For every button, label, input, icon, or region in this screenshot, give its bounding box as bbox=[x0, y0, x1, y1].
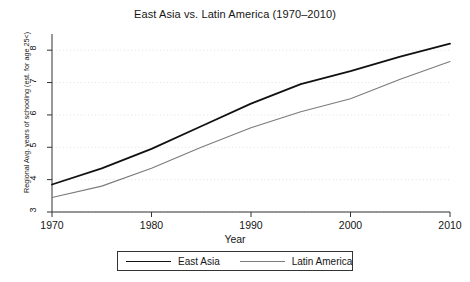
legend-item-latin-america: Latin America bbox=[220, 252, 353, 270]
x-axis-title: Year bbox=[0, 233, 470, 245]
legend-line-swatch-latin-america bbox=[240, 261, 285, 262]
legend-label-east-asia: East Asia bbox=[178, 256, 220, 267]
x-tick-label: 1990 bbox=[226, 219, 276, 231]
y-tick-marks bbox=[47, 50, 52, 212]
y-tick-label: 8 bbox=[28, 46, 38, 51]
x-tick-label: 2010 bbox=[425, 219, 470, 231]
y-tick-label: 6 bbox=[28, 110, 38, 115]
gridlines bbox=[52, 50, 450, 212]
y-tick-label: 3 bbox=[28, 207, 38, 212]
x-tick-label: 1970 bbox=[27, 219, 77, 231]
data-series-group bbox=[52, 44, 450, 198]
chart-legend: East Asia Latin America bbox=[117, 251, 353, 271]
y-tick-label: 4 bbox=[28, 175, 38, 180]
x-tick-label: 1980 bbox=[127, 219, 177, 231]
legend-item-east-asia: East Asia bbox=[118, 252, 220, 270]
x-tick-label: 2000 bbox=[326, 219, 376, 231]
axis-lines bbox=[52, 34, 450, 212]
legend-line-swatch-east-asia bbox=[126, 261, 171, 262]
y-tick-label: 5 bbox=[28, 143, 38, 148]
legend-label-latin-america: Latin America bbox=[292, 256, 353, 267]
y-tick-label: 7 bbox=[28, 78, 38, 83]
x-tick-marks bbox=[52, 212, 450, 217]
chart-figure: East Asia vs. Latin America (1970–2010) … bbox=[0, 0, 470, 282]
